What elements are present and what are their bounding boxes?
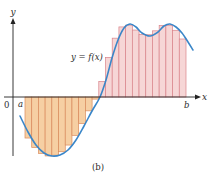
riemann-rectangles xyxy=(25,25,186,156)
riemann-rectangle xyxy=(65,97,72,145)
riemann-rectangle xyxy=(179,39,186,97)
x-axis-arrow-icon xyxy=(195,95,201,100)
curve-label: y = f(x) xyxy=(70,52,103,62)
riemann-rectangle xyxy=(132,30,139,97)
riemann-rectangle xyxy=(173,30,180,97)
riemann-rectangle xyxy=(166,25,173,97)
riemann-rectangle xyxy=(79,97,86,123)
b-label: b xyxy=(184,100,189,110)
riemann-rectangle xyxy=(139,34,146,97)
riemann-rectangle xyxy=(38,97,45,153)
riemann-rectangle xyxy=(146,35,153,97)
a-label: a xyxy=(18,99,23,109)
riemann-rectangle xyxy=(126,25,133,97)
riemann-rectangle xyxy=(45,97,52,156)
riemann-sum-figure: y x 0 a b y = f(x) (b) xyxy=(0,0,209,174)
x-axis-label: x xyxy=(202,92,207,102)
riemann-rectangle xyxy=(59,97,66,152)
riemann-rectangle xyxy=(159,25,166,97)
riemann-rectangle xyxy=(152,31,159,97)
riemann-rectangle xyxy=(85,97,92,111)
figure-caption: (b) xyxy=(92,162,104,172)
y-axis-arrow-icon xyxy=(11,18,16,24)
y-axis-label: y xyxy=(10,7,17,17)
origin-label: 0 xyxy=(4,100,9,110)
riemann-rectangle xyxy=(72,97,79,135)
riemann-rectangle xyxy=(52,97,59,155)
